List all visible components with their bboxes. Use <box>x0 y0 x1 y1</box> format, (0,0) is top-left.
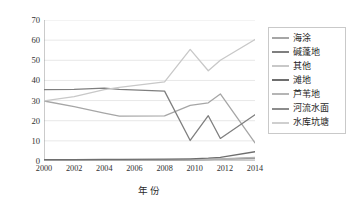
legend-line-icon <box>272 51 289 53</box>
plot-canvas <box>44 20 255 161</box>
y-tick-label: 40 <box>31 75 40 85</box>
chart-figure: PLAND/% 01020304050607020002002200420062… <box>0 0 349 203</box>
legend-item[interactable]: 碱蓬地 <box>272 45 343 59</box>
legend-label: 碱蓬地 <box>293 48 320 57</box>
x-tick-label: 2014 <box>247 164 263 173</box>
x-tick-label: 2004 <box>96 164 112 173</box>
x-tick-label: 2006 <box>126 164 142 173</box>
x-tick-label: 2010 <box>187 164 203 173</box>
legend-item[interactable]: 水库坑塘 <box>272 116 343 130</box>
x-tick-label: 2000 <box>36 164 52 173</box>
legend-line-icon <box>272 37 289 39</box>
y-tick-label: 20 <box>31 116 40 126</box>
chart-legend: 海涂碱蓬地其他滩地芦苇地河流水面水库坑塘 <box>268 27 346 134</box>
plot-area: PLAND/% 01020304050607020002002200420062… <box>44 20 255 161</box>
y-tick-label: 70 <box>31 15 40 25</box>
legend-label: 芦苇地 <box>293 90 320 99</box>
legend-line-icon <box>272 65 289 67</box>
x-tick-label: 2008 <box>156 164 172 173</box>
x-axis-title: 年份 <box>44 183 255 197</box>
legend-label: 河流水面 <box>293 104 329 113</box>
legend-label: 海涂 <box>293 34 311 43</box>
y-tick-label: 10 <box>31 136 40 146</box>
y-tick-label: 50 <box>31 55 40 65</box>
legend-item[interactable]: 滩地 <box>272 73 343 87</box>
legend-label: 其他 <box>293 62 311 71</box>
legend-item[interactable]: 海涂 <box>272 31 343 45</box>
y-tick-label: 30 <box>31 96 40 106</box>
legend-line-icon <box>272 122 289 124</box>
legend-label: 水库坑塘 <box>293 118 329 127</box>
legend-item[interactable]: 芦苇地 <box>272 87 343 101</box>
x-tick-label: 2012 <box>217 164 233 173</box>
legend-line-icon <box>272 93 289 95</box>
y-tick-label: 60 <box>31 35 40 45</box>
legend-label: 滩地 <box>293 76 311 85</box>
legend-line-icon <box>272 79 289 81</box>
legend-line-icon <box>272 108 289 110</box>
legend-item[interactable]: 其他 <box>272 59 343 73</box>
x-tick-label: 2002 <box>66 164 82 173</box>
legend-item[interactable]: 河流水面 <box>272 101 343 115</box>
